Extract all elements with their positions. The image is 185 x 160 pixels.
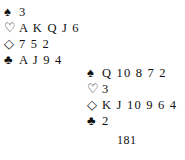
club-icon: ♣ bbox=[4, 52, 19, 68]
north-hand: ♠3 ♡A K Q J 6 ◇7 5 2 ♣A J 9 4 bbox=[4, 4, 80, 68]
south-diamonds-cards: K J 10 9 6 4 bbox=[102, 98, 177, 112]
south-hearts-cards: 3 bbox=[102, 82, 109, 96]
heart-icon: ♡ bbox=[87, 81, 102, 97]
diamond-icon: ◇ bbox=[4, 36, 19, 52]
south-hand: ♠Q 10 8 7 2 ♡3 ◇K J 10 9 6 4 ♣2 bbox=[87, 65, 177, 129]
diamond-icon: ◇ bbox=[87, 97, 102, 113]
heart-icon: ♡ bbox=[4, 20, 19, 36]
south-clubs-cards: 2 bbox=[102, 114, 109, 128]
north-clubs: ♣A J 9 4 bbox=[4, 52, 80, 68]
south-spades-cards: Q 10 8 7 2 bbox=[102, 66, 167, 80]
south-spades: ♠Q 10 8 7 2 bbox=[87, 65, 177, 81]
north-hearts: ♡A K Q J 6 bbox=[4, 20, 80, 36]
south-clubs: ♣2 bbox=[87, 113, 177, 129]
spade-icon: ♠ bbox=[4, 4, 19, 20]
north-diamonds: ◇7 5 2 bbox=[4, 36, 80, 52]
page-number: 181 bbox=[117, 133, 137, 148]
club-icon: ♣ bbox=[87, 113, 102, 129]
north-spades-cards: 3 bbox=[19, 5, 26, 19]
south-diamonds: ◇K J 10 9 6 4 bbox=[87, 97, 177, 113]
spade-icon: ♠ bbox=[87, 65, 102, 81]
north-clubs-cards: A J 9 4 bbox=[19, 53, 62, 67]
south-hearts: ♡3 bbox=[87, 81, 177, 97]
north-diamonds-cards: 7 5 2 bbox=[19, 37, 50, 51]
north-hearts-cards: A K Q J 6 bbox=[19, 21, 80, 35]
north-spades: ♠3 bbox=[4, 4, 80, 20]
